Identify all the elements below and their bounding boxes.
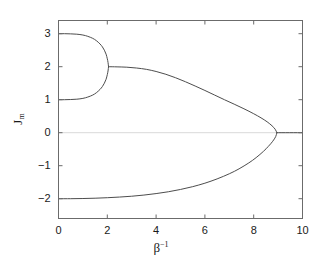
x-tick-label: 0 [39,224,79,236]
curve-lower-bubble-branch [59,67,109,100]
x-tick-label: 4 [136,224,176,236]
x-tick-label: 8 [234,224,274,236]
curve-layer [59,34,303,199]
y-tick-label: 1 [13,93,51,105]
curve-bottom-branch [59,133,277,199]
axis-ticks-layer [59,21,303,219]
y-tick-label: −1 [13,159,51,171]
x-axis-label: β−1 [0,240,322,256]
curve-middle-branch [109,67,277,133]
x-tick-label: 2 [87,224,127,236]
y-tick-label: 3 [13,27,51,39]
y-tick-label: 2 [13,60,51,72]
axes-frame-layer [59,21,303,219]
plot-frame [59,21,303,219]
curve-upper-bubble-branch [59,34,109,67]
y-axis-label-subscript: m [17,113,26,119]
y-tick-label: −2 [13,192,51,204]
x-tick-label: 10 [283,224,322,236]
bifurcation-diagram-figure: Jm β−1 0246810 −2−10123 [0,0,322,268]
y-tick-label: 0 [13,126,51,138]
y-axis-label-base: J [10,120,25,125]
x-tick-label: 6 [185,224,225,236]
